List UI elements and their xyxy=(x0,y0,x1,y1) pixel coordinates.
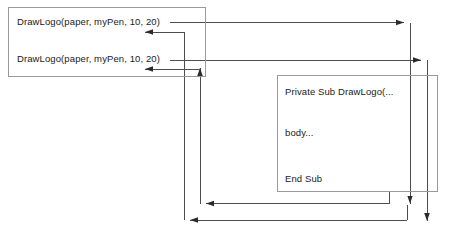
procedure-end-line: End Sub xyxy=(285,173,322,184)
caller-line-2: DrawLogo(paper, myPen, 10, 20) xyxy=(17,53,160,64)
caller-line-1: DrawLogo(paper, myPen, 10, 20) xyxy=(17,16,160,27)
diagram-canvas: DrawLogo(paper, myPen, 10, 20) DrawLogo(… xyxy=(0,0,451,240)
procedure-header-line: Private Sub DrawLogo(... xyxy=(285,86,394,97)
procedure-body-line: body... xyxy=(285,127,314,138)
